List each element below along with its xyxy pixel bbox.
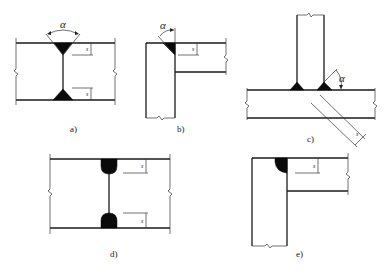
- break-line-bottom: [146, 116, 175, 120]
- dim-label-s: s: [356, 131, 359, 137]
- alpha-label: α: [339, 72, 345, 84]
- weld-bottom: [101, 213, 117, 228]
- dim-label-s: s: [192, 46, 195, 52]
- panel-label: c): [307, 134, 314, 144]
- break-line-bottom: [252, 244, 287, 248]
- fillet-weld-left: [290, 82, 304, 90]
- panel-a: α s s a): [14, 18, 117, 134]
- dim-label-s: s: [86, 46, 89, 52]
- panel-label: b): [177, 124, 185, 134]
- angle-arc: [48, 30, 78, 34]
- dim-label-s: s: [141, 218, 144, 224]
- break-line-right: [346, 153, 350, 195]
- break-line-left: [245, 88, 249, 120]
- break-line-right: [373, 88, 377, 120]
- arrowhead: [339, 85, 343, 89]
- arrowhead: [170, 28, 174, 32]
- panel-e: s e): [252, 153, 350, 259]
- weld-corner: [275, 158, 287, 173]
- arrowhead: [47, 31, 51, 35]
- alpha-label: α: [60, 18, 66, 30]
- arrowhead: [75, 31, 79, 35]
- panel-label: e): [296, 249, 303, 259]
- dim-label-s: s: [86, 91, 89, 97]
- panel-d: s s d): [48, 154, 172, 259]
- weld-joint-diagram: α s s a) α s b): [0, 0, 390, 274]
- panel-b: α s b): [146, 19, 228, 134]
- break-line-left: [48, 154, 52, 234]
- break-line-right: [168, 154, 172, 234]
- weld-top: [101, 159, 117, 174]
- panel-label: a): [70, 124, 77, 134]
- weld-top: [54, 43, 72, 55]
- groove-line: [324, 69, 337, 82]
- dim-label-s: s: [313, 163, 316, 169]
- dim-label-s: s: [141, 163, 144, 169]
- panel-c: α s c): [245, 13, 377, 147]
- break-line-top: [297, 13, 324, 17]
- break-line-right: [113, 38, 117, 105]
- weld-bottom: [53, 89, 73, 100]
- fillet-weld-right: [317, 82, 332, 90]
- dim-extension: [311, 103, 357, 147]
- break-line-left: [14, 38, 18, 105]
- alpha-label: α: [160, 19, 166, 31]
- panel-label: d): [110, 249, 118, 259]
